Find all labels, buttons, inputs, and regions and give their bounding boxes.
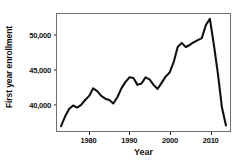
x-tick-mark bbox=[89, 132, 90, 135]
plot-area bbox=[56, 13, 231, 132]
x-axis-title: Year bbox=[56, 147, 231, 157]
y-axis-ticks: 40,00045,00050,000 bbox=[16, 0, 54, 163]
y-axis-title: First year enrollment bbox=[2, 0, 16, 133]
x-tick-mark bbox=[211, 132, 212, 135]
x-tick-label: 2010 bbox=[203, 136, 219, 145]
x-tick-label: 1990 bbox=[121, 136, 137, 145]
x-tick-label: 2000 bbox=[162, 136, 178, 145]
x-tick-mark bbox=[129, 132, 130, 135]
y-tick-label: 50,000 bbox=[29, 31, 51, 40]
y-tick-label: 45,000 bbox=[29, 66, 51, 75]
data-line-svg bbox=[57, 14, 230, 131]
y-tick-label: 40,000 bbox=[29, 101, 51, 110]
x-tick-label: 1980 bbox=[81, 136, 97, 145]
enrollment-line bbox=[61, 19, 226, 126]
x-tick-mark bbox=[170, 132, 171, 135]
chart-figure: First year enrollment 40,00045,00050,000… bbox=[0, 0, 243, 163]
y-axis-title-text: First year enrollment bbox=[4, 26, 14, 108]
